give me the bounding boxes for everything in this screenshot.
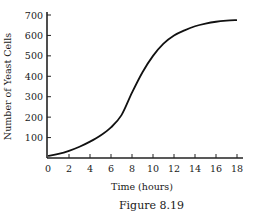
x-tick-label: 8 — [129, 163, 135, 174]
x-tick-label: 10 — [147, 163, 159, 174]
y-tick-label: 500 — [25, 50, 43, 61]
y-tick-label: 400 — [25, 71, 43, 82]
x-tick-label: 12 — [168, 163, 180, 174]
x-tick-label: 18 — [231, 163, 243, 174]
y-axis-title: Number of Yeast Cells — [2, 33, 13, 140]
x-tick-label: 14 — [189, 163, 201, 174]
x-tick-label: 16 — [210, 163, 222, 174]
growth-curve — [48, 20, 237, 156]
x-tick-label: 2 — [66, 163, 72, 174]
x-tick-label: 0 — [45, 163, 51, 174]
x-tick-label: 6 — [108, 163, 114, 174]
y-tick-label: 200 — [25, 112, 43, 123]
x-tick-label: 4 — [87, 163, 93, 174]
y-tick-label: 300 — [25, 91, 43, 102]
y-tick-label: 700 — [25, 10, 43, 21]
y-tick-label: 100 — [25, 132, 43, 143]
figure-caption: Figure 8.19 — [0, 199, 253, 212]
line-chart: 024681012141618100200300400500600700Time… — [0, 0, 253, 224]
x-axis-title: Time (hours) — [111, 181, 173, 192]
y-tick-label: 600 — [25, 30, 43, 41]
